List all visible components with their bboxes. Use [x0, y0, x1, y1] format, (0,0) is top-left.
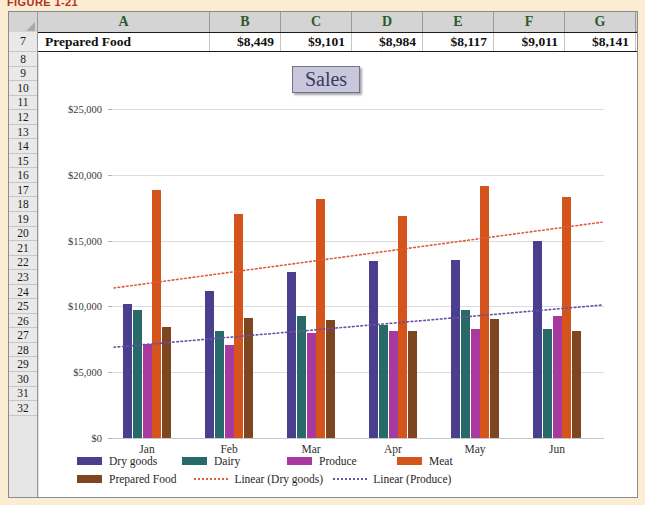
spreadsheet-window: ABCDEFG 78910111213141516171819202122232… — [8, 11, 638, 498]
legend-swatch-icon — [77, 457, 102, 465]
row-header-20[interactable]: 20 — [9, 227, 37, 242]
row7-values: $8,449$9,101$8,984$8,117$9,011$8,141 — [210, 33, 636, 51]
y-axis-tick-label: $0 — [40, 433, 102, 444]
row-header-30[interactable]: 30 — [9, 372, 37, 387]
gridline-0 — [112, 438, 604, 439]
cell-d7[interactable]: $8,984 — [352, 33, 423, 51]
row-header-21[interactable]: 21 — [9, 241, 37, 256]
row-header-14[interactable]: 14 — [9, 139, 37, 154]
legend-item-linear-produce[interactable]: Linear (Produce) — [333, 473, 451, 485]
row-header-25[interactable]: 25 — [9, 299, 37, 314]
legend-row-primary: Dry goodsDairyProduceMeat — [77, 452, 617, 470]
row-header-32[interactable]: 32 — [9, 401, 37, 416]
legend-label: Linear (Produce) — [373, 473, 451, 485]
row-header-17[interactable]: 17 — [9, 183, 37, 198]
row-header-28[interactable]: 28 — [9, 343, 37, 358]
legend-label: Produce — [319, 455, 357, 467]
row-header-27[interactable]: 27 — [9, 328, 37, 343]
column-header-c[interactable]: C — [281, 12, 352, 32]
row-header-24[interactable]: 24 — [9, 285, 37, 300]
sales-chart[interactable]: Sales $0$5,000$10,000$15,000$20,000$25,0… — [38, 54, 638, 498]
row-header-16[interactable]: 16 — [9, 168, 37, 183]
column-header-row: ABCDEFG — [9, 12, 638, 32]
cell-a7[interactable]: Prepared Food — [38, 33, 210, 51]
row-header-18[interactable]: 18 — [9, 197, 37, 212]
legend-label: Dry goods — [109, 455, 157, 467]
select-all-triangle-icon[interactable] — [9, 12, 38, 32]
legend-item-prepared-food[interactable]: Prepared Food — [77, 473, 176, 485]
row-header-26[interactable]: 26 — [9, 314, 37, 329]
legend-swatch-icon — [182, 457, 207, 465]
figure-caption: FIGURE 1-21 — [7, 0, 78, 7]
chart-plot-area: $0$5,000$10,000$15,000$20,000$25,000 Jan… — [112, 109, 604, 438]
legend-item-dairy[interactable]: Dairy — [182, 455, 287, 467]
legend-swatch-icon — [77, 475, 102, 483]
screenshot-root: FIGURE 1-21 ABCDEFG 78910111213141516171… — [0, 0, 645, 505]
legend-item-linear-dry-goods[interactable]: Linear (Dry goods) — [194, 473, 323, 485]
row-header-29[interactable]: 29 — [9, 357, 37, 372]
column-header-a[interactable]: A — [38, 12, 210, 32]
chart-legend[interactable]: Dry goodsDairyProduceMeat Prepared FoodL… — [77, 452, 617, 488]
y-axis-tick-label: $15,000 — [40, 235, 102, 246]
cell-e7[interactable]: $8,117 — [423, 33, 494, 51]
row-header-8[interactable]: 8 — [9, 52, 37, 67]
row-header-31[interactable]: 31 — [9, 387, 37, 402]
legend-dotted-line-icon — [194, 478, 228, 480]
legend-label: Dairy — [214, 455, 240, 467]
column-header-e[interactable]: E — [423, 12, 494, 32]
column-header-f[interactable]: F — [494, 12, 565, 32]
cell-g7[interactable]: $8,141 — [565, 33, 636, 51]
legend-swatch-icon — [397, 457, 422, 465]
legend-item-produce[interactable]: Produce — [287, 455, 397, 467]
chart-title[interactable]: Sales — [292, 66, 360, 93]
column-header-g[interactable]: G — [565, 12, 636, 32]
row-number-gutter: 7891011121314151617181920212223242526272… — [9, 32, 38, 498]
chart-trendlines — [112, 109, 604, 438]
row-header-7[interactable]: 7 — [9, 32, 37, 52]
row-header-22[interactable]: 22 — [9, 256, 37, 271]
row-header-13[interactable]: 13 — [9, 125, 37, 140]
legend-item-dry-goods[interactable]: Dry goods — [77, 455, 182, 467]
column-header-d[interactable]: D — [352, 12, 423, 32]
row-header-11[interactable]: 11 — [9, 96, 37, 111]
legend-label: Meat — [429, 455, 453, 467]
cell-c7[interactable]: $9,101 — [281, 33, 352, 51]
table-row[interactable]: Prepared Food $8,449$9,101$8,984$8,117$9… — [38, 32, 638, 52]
row-header-19[interactable]: 19 — [9, 212, 37, 227]
y-axis-tick-label: $25,000 — [40, 104, 102, 115]
row-header-9[interactable]: 9 — [9, 67, 37, 82]
legend-label: Prepared Food — [109, 473, 176, 485]
y-axis-tick-label: $10,000 — [40, 301, 102, 312]
y-axis-tick-label: $20,000 — [40, 169, 102, 180]
trendline-linear-produce[interactable] — [114, 305, 602, 347]
y-tick-mark — [108, 438, 112, 439]
column-header-b[interactable]: B — [210, 12, 281, 32]
legend-row-secondary: Prepared FoodLinear (Dry goods)Linear (P… — [77, 470, 617, 488]
y-axis-tick-label: $5,000 — [40, 367, 102, 378]
cell-f7[interactable]: $9,011 — [494, 33, 565, 51]
row-header-23[interactable]: 23 — [9, 270, 37, 285]
row-header-10[interactable]: 10 — [9, 81, 37, 96]
row-header-12[interactable]: 12 — [9, 110, 37, 125]
cell-b7[interactable]: $8,449 — [210, 33, 281, 51]
legend-dotted-line-icon — [333, 478, 367, 480]
column-letters: ABCDEFG — [38, 12, 636, 31]
row-header-15[interactable]: 15 — [9, 154, 37, 169]
legend-label: Linear (Dry goods) — [234, 473, 323, 485]
trendline-linear-dry-goods[interactable] — [114, 222, 602, 288]
legend-swatch-icon — [287, 457, 312, 465]
legend-item-meat[interactable]: Meat — [397, 455, 497, 467]
